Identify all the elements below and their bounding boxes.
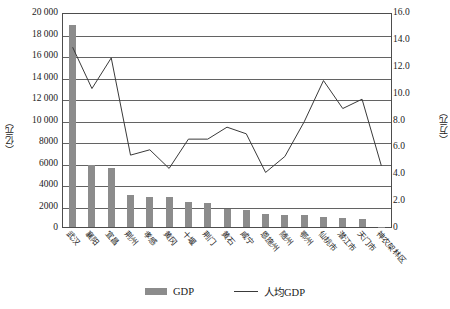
x-axis-tick-label: 宜昌 — [103, 230, 120, 247]
right-axis-title: （万元） — [436, 108, 449, 144]
right-axis-tick: 0 — [393, 223, 398, 233]
x-label-cell: 天门市 — [353, 230, 372, 290]
left-axis-tick: 0 — [14, 223, 58, 233]
legend-bar-swatch-icon — [145, 288, 167, 295]
x-label-cell: 咸宁 — [237, 230, 256, 290]
left-axis-tick: 4000 — [14, 180, 58, 190]
left-axis-tick: 16 000 — [14, 51, 58, 61]
x-label-cell: 黄冈 — [159, 230, 178, 290]
right-axis-tick: 8.0 — [393, 116, 405, 126]
x-label-cell: 襄阳 — [81, 230, 100, 290]
left-axis-tick-labels: 20 00018 00016 00014 00012 00010 0008000… — [14, 0, 58, 309]
line-series-per-capita-gdp — [63, 14, 391, 227]
left-axis-tick: 20 000 — [14, 8, 58, 18]
x-label-cell: 仙桃市 — [314, 230, 333, 290]
x-label-cell: 恩施州 — [256, 230, 275, 290]
x-label-cell: 宜昌 — [101, 230, 120, 290]
left-axis-tick: 10 000 — [14, 116, 58, 126]
x-label-cell: 神农架林区 — [373, 230, 392, 290]
left-axis-tick: 12 000 — [14, 94, 58, 104]
x-label-cell: 孝感 — [140, 230, 159, 290]
x-axis-tick-label: 孝感 — [141, 230, 158, 247]
left-axis-tick: 18 000 — [14, 30, 58, 40]
x-axis-tick-label: 咸宁 — [238, 230, 255, 247]
right-axis-tick: 6.0 — [393, 142, 405, 152]
x-axis-tick-label: 鄂州 — [297, 230, 314, 247]
x-axis-tick-label: 武汉 — [64, 230, 81, 247]
legend-label-per-capita-gdp: 人均GDP — [264, 284, 305, 299]
x-label-cell: 鄂州 — [295, 230, 314, 290]
left-axis-tick: 14 000 — [14, 73, 58, 83]
x-label-cell: 武汉 — [62, 230, 81, 290]
right-axis-tick: 2.0 — [393, 196, 405, 206]
x-axis-tick-label: 襄阳 — [83, 230, 100, 247]
x-label-cell: 潜江市 — [334, 230, 353, 290]
right-axis-tick: 12.0 — [393, 62, 410, 72]
legend-item-per-capita-gdp: 人均GDP — [234, 284, 305, 299]
x-label-cell: 荆门 — [198, 230, 217, 290]
x-label-cell: 随州 — [275, 230, 294, 290]
chart-legend: GDP 人均GDP — [0, 284, 450, 299]
right-axis-tick: 4.0 — [393, 169, 405, 179]
legend-label-gdp: GDP — [173, 286, 194, 297]
x-axis-tick-label: 荆门 — [200, 230, 217, 247]
x-axis-category-labels: 武汉襄阳宜昌荆州孝感黄冈十堰荆门黄石咸宁恩施州随州鄂州仙桃市潜江市天门市神农架林… — [62, 230, 392, 290]
x-label-cell: 黄石 — [217, 230, 236, 290]
x-axis-tick-label: 黄石 — [219, 230, 236, 247]
legend-line-swatch-icon — [234, 291, 258, 292]
right-axis-tick: 10.0 — [393, 89, 410, 99]
x-axis-tick-label: 随州 — [277, 230, 294, 247]
left-axis-tick: 6000 — [14, 159, 58, 169]
right-axis-tick: 16.0 — [393, 8, 410, 18]
legend-item-gdp: GDP — [145, 286, 194, 297]
gdp-per-capita-combo-chart: （亿元） 20 00018 00016 00014 00012 00010 00… — [0, 0, 450, 309]
left-axis-tick: 8000 — [14, 137, 58, 147]
per-capita-gdp-polyline — [73, 47, 382, 172]
right-axis-tick: 14.0 — [393, 35, 410, 45]
x-axis-tick-label: 十堰 — [180, 230, 197, 247]
plot-area — [62, 13, 392, 228]
x-axis-tick-label: 黄冈 — [161, 230, 178, 247]
left-axis-tick: 2000 — [14, 202, 58, 212]
x-label-cell: 十堰 — [178, 230, 197, 290]
x-axis-tick-label: 荆州 — [122, 230, 139, 247]
x-label-cell: 荆州 — [120, 230, 139, 290]
